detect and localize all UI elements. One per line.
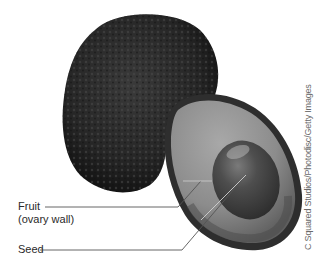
fruit-label-line1: Fruit: [18, 200, 74, 213]
seed-label-text: Seed: [18, 243, 44, 256]
fruit-label-line2: (ovary wall): [18, 213, 74, 226]
avocado-illustration: [0, 0, 331, 267]
fruit-label: Fruit (ovary wall): [18, 200, 74, 226]
seed-label: Seed: [18, 243, 44, 256]
half-avocado: [165, 94, 302, 250]
photo-credit: C Squared Studios/Photodisc/Getty Images: [303, 84, 313, 250]
